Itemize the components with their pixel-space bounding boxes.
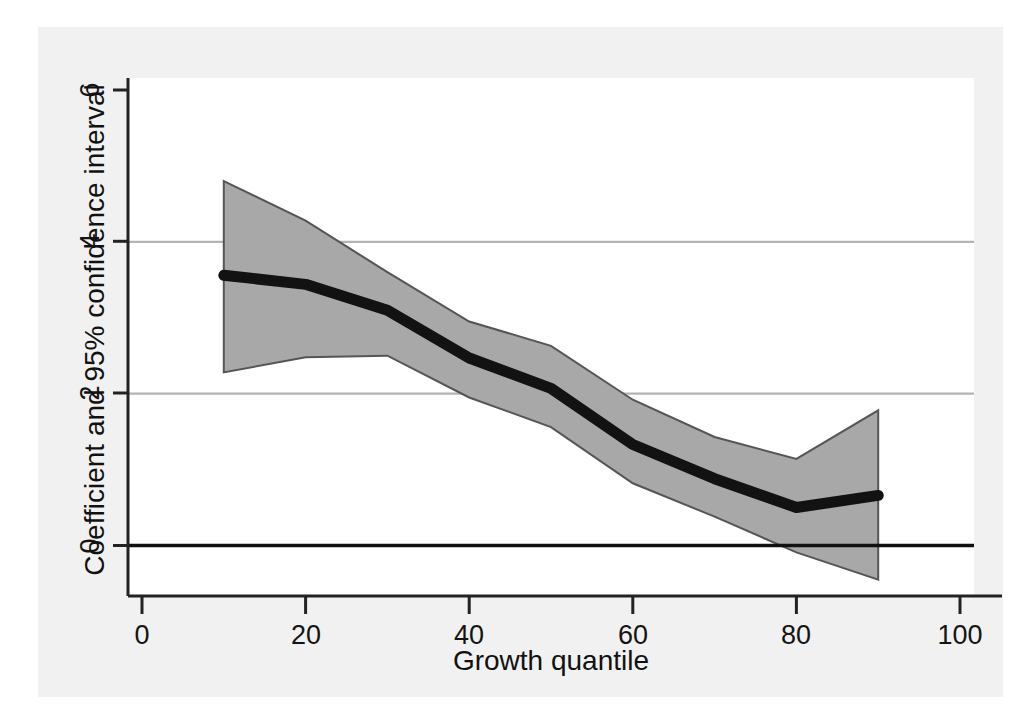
chart-plot-area <box>0 0 1033 723</box>
x-tick-label-100: 100 <box>937 622 982 649</box>
y-axis-title: Coefficient and 95% confidence interval <box>79 84 111 575</box>
x-tick-label-20: 20 <box>291 622 321 649</box>
figure-container: 6 4 2 0 0 20 40 60 80 100 Growth quantil… <box>0 0 1033 723</box>
x-tick-label-80: 80 <box>781 622 811 649</box>
x-axis-title: Growth quantile <box>453 645 649 677</box>
x-tick-label-0: 0 <box>134 622 149 649</box>
